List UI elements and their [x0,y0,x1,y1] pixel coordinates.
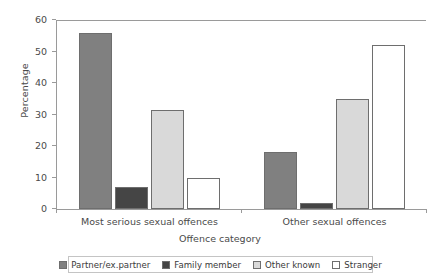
legend-swatch-icon [59,261,67,269]
bar [115,187,148,209]
bar [372,45,405,209]
bar-group [242,20,427,209]
bar-group [57,20,242,209]
chart-legend: Partner/ex.partnerFamily memberOther kno… [68,256,373,273]
y-tick-label: 50 [0,46,47,57]
legend-label: Family member [174,260,241,270]
legend-swatch-icon [253,261,261,269]
x-tick-mark [426,209,427,213]
y-tick-label: 0 [0,203,47,214]
legend-item[interactable]: Partner/ex.partner [59,260,150,270]
y-tick-label: 30 [0,109,47,120]
bar [79,33,112,209]
bar-series-container [57,20,426,209]
legend-item[interactable]: Stranger [332,260,381,270]
legend-label: Stranger [344,260,381,270]
x-axis-title: Offence category [0,233,440,244]
legend-item[interactable]: Other known [253,260,320,270]
y-tick-label: 10 [0,172,47,183]
bar [336,99,369,209]
bar-chart: Percentage 0102030405060 Most serious se… [0,0,440,279]
y-tick-label: 60 [0,14,47,25]
legend-swatch-icon [162,261,170,269]
bar [300,203,333,209]
legend-label: Partner/ex.partner [71,260,150,270]
bar [187,178,220,210]
x-category-label: Most serious sexual offences [81,216,218,227]
x-category-label: Other sexual offences [283,216,387,227]
legend-label: Other known [265,260,320,270]
y-tick-label: 20 [0,140,47,151]
bar [151,110,184,209]
legend-swatch-icon [332,261,340,269]
bar [264,152,297,209]
x-tick-mark [56,209,57,213]
y-tick-label: 40 [0,77,47,88]
x-tick-mark [241,209,242,213]
legend-item[interactable]: Family member [162,260,241,270]
